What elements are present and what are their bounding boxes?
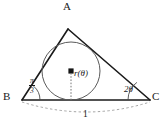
angle-label-b-denominator: 3 — [29, 87, 35, 95]
vertex-label-a: A — [63, 1, 71, 12]
vertex-label-c: C — [152, 91, 159, 102]
incenter-dot — [68, 68, 73, 73]
figure-canvas — [0, 0, 168, 125]
geometry-figure: A B C π 3 2θ r(θ) 1 — [0, 0, 168, 125]
base-length-label: 1 — [83, 110, 88, 120]
angle-label-b-numerator: π — [29, 77, 35, 85]
angle-label-c: 2θ — [124, 85, 133, 94]
angle-label-b: π 3 — [29, 77, 35, 95]
vertex-label-b: B — [3, 91, 10, 102]
radius-label: r(θ) — [74, 69, 88, 78]
triangle-side-ac — [68, 29, 150, 100]
